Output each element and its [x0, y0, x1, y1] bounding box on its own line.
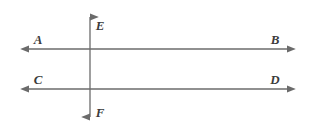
label-e: E	[95, 18, 105, 33]
label-b: B	[270, 32, 280, 47]
label-d: D	[269, 72, 280, 87]
label-f: F	[95, 105, 105, 120]
figure-canvas: A B C D E F	[0, 0, 311, 133]
geometry-figure: A B C D E F	[0, 0, 311, 133]
label-a: A	[33, 32, 43, 47]
label-c: C	[34, 72, 43, 87]
figure-background	[0, 0, 311, 133]
